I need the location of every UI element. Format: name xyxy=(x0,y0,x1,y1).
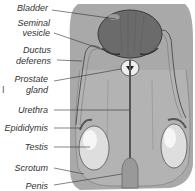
label-seminal-vesicle-line2: vesicle xyxy=(14,28,50,38)
label-ductus-deferens-line1: Ductus xyxy=(14,45,51,55)
label-prostate-gland-line1: Prostate xyxy=(10,74,48,84)
bladder-shape xyxy=(98,10,162,58)
label-bladder: Bladder xyxy=(16,3,48,13)
label-testis: Testis xyxy=(10,142,48,152)
side-mark: I xyxy=(2,85,5,95)
label-epididymis: Epididymis xyxy=(2,123,48,133)
label-seminal-vesicle-line1: Seminal xyxy=(14,18,50,28)
label-penis: Penis xyxy=(10,181,48,191)
label-prostate-gland-line2: gland xyxy=(10,85,48,95)
label-ductus-deferens-line2: deferens xyxy=(14,56,51,66)
label-urethra: Urethra xyxy=(10,105,48,115)
label-scrotum: Scrotum xyxy=(6,163,48,173)
